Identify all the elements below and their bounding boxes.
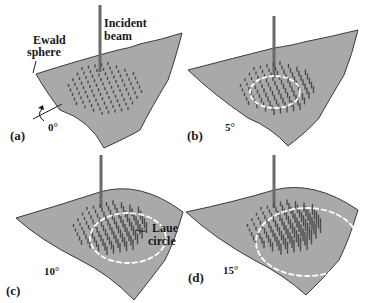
laue-label-line2: circle — [148, 234, 176, 248]
angle-label-d: 15° — [223, 264, 238, 276]
angle-label-b: 5° — [225, 121, 235, 133]
angle-label-c: 10° — [44, 265, 59, 277]
angle-label-a: 0° — [48, 121, 58, 133]
panel-d — [186, 155, 358, 295]
laue-label-line1: Laue — [152, 221, 179, 235]
rotation-arrow-icon — [33, 104, 62, 121]
ewald-sheet — [186, 188, 358, 296]
incident-beam — [99, 5, 102, 72]
ewald-sphere-figure: Ewald sphere Incident beam Laue circle (… — [0, 0, 368, 303]
incident-beam — [100, 155, 103, 208]
panel-label-a: (a) — [10, 128, 25, 143]
panel-label-c: (c) — [6, 283, 20, 298]
ewald-pointer — [33, 61, 36, 73]
panel-label-b: (b) — [187, 128, 203, 143]
incident-label-line1: Incident — [104, 16, 147, 30]
panel-b — [188, 16, 358, 146]
incident-beam — [273, 155, 276, 208]
incident-label-line2: beam — [104, 29, 132, 43]
figure-canvas: Ewald sphere Incident beam Laue circle (… — [0, 0, 368, 303]
panel-label-d: (d) — [188, 270, 204, 285]
ewald-label-line2: sphere — [27, 45, 61, 59]
